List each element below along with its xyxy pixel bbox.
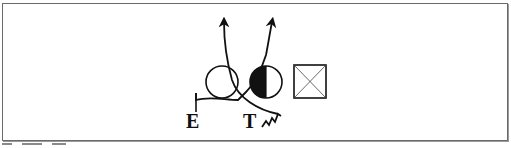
- tackle-label: T: [243, 110, 257, 132]
- crossed-square-symbol: [294, 65, 326, 98]
- half-filled-circle-player: [250, 66, 282, 98]
- figure-caption-partial: [2, 143, 92, 148]
- play-diagram: E T: [0, 0, 511, 148]
- end-label: E: [186, 110, 199, 132]
- zigzag-mark-icon: [262, 114, 281, 127]
